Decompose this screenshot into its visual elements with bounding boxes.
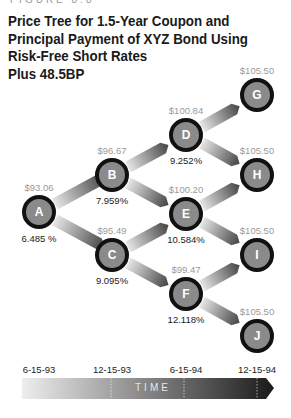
node-e-price: $100.20 — [169, 184, 203, 195]
price-tree: $93.06 A 6.485 % $96.67 B 7.959% $95.49 … — [0, 0, 291, 418]
node-e-label: E — [182, 207, 190, 221]
node-h: $105.50 H — [240, 145, 274, 190]
node-g-label: G — [252, 88, 261, 102]
node-j-label: J — [254, 329, 261, 343]
node-b-price: $96.67 — [97, 145, 126, 156]
arrow-e-h — [199, 180, 242, 211]
node-a: $93.06 A 6.485 % — [22, 182, 57, 244]
arrow-c-e — [125, 220, 171, 252]
node-i: $105.50 I — [240, 225, 274, 270]
node-c-rate: 9.095% — [96, 275, 129, 286]
node-b-rate: 7.959% — [96, 195, 129, 206]
node-e-rate: 10.584% — [167, 234, 205, 245]
arrow-c-f — [125, 258, 171, 290]
node-g: $105.50 G — [240, 65, 274, 110]
node-j-price: $105.50 — [240, 306, 274, 317]
branch-arrows — [52, 101, 242, 328]
arrow-b-e — [125, 178, 171, 210]
node-c: $95.49 C 9.095% — [96, 225, 129, 286]
node-c-label: C — [108, 248, 117, 262]
node-i-label: I — [255, 248, 258, 262]
node-b: $96.67 B 7.959% — [96, 145, 129, 206]
arrow-f-j — [199, 297, 242, 328]
node-h-label: H — [253, 168, 262, 182]
arrow-e-i — [199, 217, 242, 248]
arrow-d-g — [199, 101, 242, 132]
node-g-price: $105.50 — [240, 65, 274, 76]
node-f-label: F — [182, 287, 189, 301]
time-tick-1: 6-15-93 — [23, 364, 56, 375]
node-f-rate: 12.118% — [168, 314, 205, 325]
node-j: $105.50 J — [240, 306, 274, 351]
arrow-d-h — [199, 138, 242, 169]
node-d-price: $100.84 — [169, 105, 203, 116]
node-a-label: A — [35, 205, 44, 219]
time-tick-2: 12-15-93 — [93, 364, 131, 375]
arrow-f-i — [199, 260, 242, 291]
time-label: TIME — [135, 382, 171, 393]
node-a-rate: 6.485 % — [22, 233, 57, 244]
node-d-label: D — [182, 128, 191, 142]
node-d: $100.84 D 9.252% — [169, 105, 203, 166]
node-h-price: $105.50 — [240, 145, 274, 156]
node-f: $99.47 F 12.118% — [168, 264, 205, 325]
node-i-price: $105.50 — [240, 225, 274, 236]
time-tick-3: 6-15-94 — [170, 364, 203, 375]
arrow-b-d — [125, 140, 171, 172]
node-d-rate: 9.252% — [170, 155, 203, 166]
node-e: $100.20 E 10.584% — [167, 184, 205, 245]
node-a-price: $93.06 — [24, 182, 53, 193]
node-c-price: $95.49 — [97, 225, 126, 236]
node-f-price: $99.47 — [171, 264, 200, 275]
time-tick-4: 12-15-94 — [238, 364, 276, 375]
node-b-label: B — [108, 168, 117, 182]
